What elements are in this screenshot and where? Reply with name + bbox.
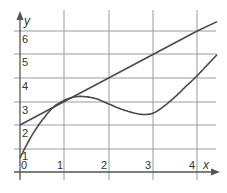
y-tick-6: 6 — [22, 33, 28, 45]
y-axis-arrow-icon — [17, 11, 24, 20]
y-tick-3: 3 — [22, 104, 28, 116]
x-tick-3: 3 — [145, 159, 151, 171]
y-axis-label: y — [23, 14, 31, 28]
horizontal-gridlines — [14, 31, 216, 149]
tangent-line — [20, 22, 217, 125]
x-tick-2: 2 — [101, 159, 107, 171]
function-curve — [20, 55, 217, 158]
x-tick-1: 1 — [57, 159, 63, 171]
x-tick-4: 4 — [189, 159, 195, 171]
x-axis-label: x — [202, 158, 210, 172]
function-graph: y x 0 1 2 3 4 1 2 3 4 5 6 — [0, 0, 227, 193]
y-tick-4: 4 — [22, 80, 28, 92]
y-tick-5: 5 — [22, 56, 28, 68]
x-axis-arrow-icon — [211, 169, 220, 176]
y-tick-2: 2 — [22, 127, 28, 139]
